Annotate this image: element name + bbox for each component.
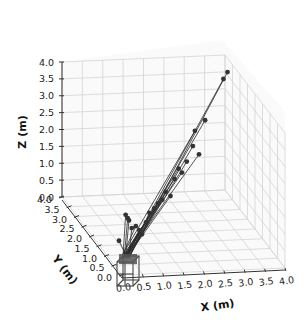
z-tick-label: 0.5 [39,175,54,186]
endpoint-marker [160,197,165,202]
y-tick-label: 0.0 [97,272,112,283]
endpoint-marker [197,152,202,157]
y-axis-label: Y (m) [49,252,80,287]
endpoint-marker [144,220,149,225]
x-tick-label: 2.5 [217,277,233,290]
z-tick-label: 4.0 [39,57,54,68]
endpoint-marker [163,189,168,194]
endpoint-marker [193,128,198,133]
x-tick-label: 3.5 [258,275,274,288]
z-tick-label: 3.5 [39,73,54,84]
y-tick-label: 1.5 [74,243,89,254]
endpoint-marker [147,210,152,215]
y-tick-label: 3.5 [44,204,59,215]
endpoint-marker [117,238,122,243]
x-axis-label: X (m) [200,297,235,315]
x-tick-label: 0.0 [115,281,131,294]
endpoint-marker [152,206,157,211]
x-tick-label: 1.5 [176,278,192,291]
endpoint-marker [203,118,208,123]
z-axis-label: Z (m) [16,115,29,148]
x-tick-label: 2.0 [197,278,213,291]
z-tick-label: 3.0 [39,90,54,101]
endpoint-marker [133,224,138,229]
z-tick-label: 1.0 [39,158,54,169]
y-tick-label: 3.0 [52,214,67,225]
z-tick-label: 2.5 [39,107,54,118]
y-tick-label: 2.5 [59,223,74,234]
y-tick-label: 2.0 [67,233,82,244]
endpoint-marker [168,194,173,199]
y-tick-label: 1.0 [82,253,97,264]
endpoint-marker [129,226,134,231]
endpoint-marker [190,144,195,149]
endpoint-marker [180,170,185,175]
endpoint-marker [184,159,189,164]
endpoint-marker [172,177,177,182]
y-tick-label: 0.5 [89,262,104,273]
endpoint-marker [176,166,181,171]
endpoint-marker [127,218,132,223]
x-tick-label: 3.0 [238,276,254,289]
z-tick-label: 1.5 [39,141,54,152]
x-tick-label: 4.0 [278,274,294,287]
endpoint-marker [156,201,161,206]
endpoint-marker [221,77,226,82]
x-tick-label: 1.0 [156,279,172,292]
z-tick-label: 2.0 [39,124,54,135]
3d-scatter-plot: 0.00.51.01.52.02.53.03.54.00.00.51.01.52… [0,0,306,328]
back-wall-pane [62,40,222,197]
endpoint-marker [137,228,142,233]
y-tick-label: 4.0 [37,194,52,205]
x-tick-label: 0.5 [136,280,152,293]
endpoint-marker [140,232,145,237]
endpoint-marker [225,70,230,75]
